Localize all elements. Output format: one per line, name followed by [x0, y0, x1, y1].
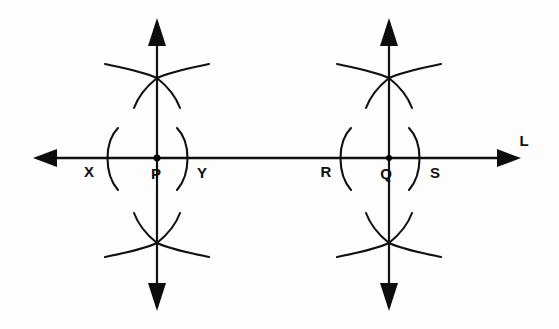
small-arc-upper-right-P	[157, 78, 180, 108]
line-label-L: L	[519, 132, 528, 149]
wide-arc-lower-left-Q	[337, 243, 389, 257]
horizontal-line-group	[33, 149, 521, 167]
point-label-R: R	[321, 163, 332, 180]
point-label-P: P	[151, 165, 161, 182]
point-dot-P	[154, 155, 161, 162]
wide-arc-upper-right-P	[157, 64, 209, 78]
point-dot-Q	[386, 155, 392, 161]
wide-arc-upper-left-P	[105, 64, 157, 78]
wide-arc-upper-right-Q	[389, 64, 441, 78]
figure-root: X P Y R Q S L	[0, 0, 559, 329]
right-arrowhead	[497, 149, 521, 167]
small-arc-upper-left-P	[134, 78, 157, 108]
point-label-X: X	[84, 163, 94, 180]
small-arc-lower-right-Q	[389, 213, 412, 243]
left-arrowhead	[33, 149, 57, 167]
construction-diagram: X P Y R Q S L	[0, 0, 559, 329]
small-arc-upper-right-Q	[389, 78, 412, 108]
small-arc-lower-left-P	[134, 213, 157, 243]
point-label-Q: Q	[380, 165, 392, 182]
perpendicular-P-top-arrowhead	[148, 18, 166, 46]
point-label-Y: Y	[197, 164, 207, 181]
wide-arc-lower-right-Q	[389, 243, 441, 257]
perpendicular-Q-top-arrowhead	[380, 18, 398, 46]
wide-arc-upper-left-Q	[337, 64, 389, 78]
small-arc-upper-left-Q	[366, 78, 389, 108]
perpendicular-Q-bottom-arrowhead	[380, 283, 398, 311]
small-arc-lower-left-Q	[366, 213, 389, 243]
point-label-S: S	[430, 164, 440, 181]
small-arc-lower-right-P	[157, 213, 180, 243]
perpendicular-P-bottom-arrowhead	[148, 283, 166, 311]
wide-arc-lower-left-P	[105, 243, 157, 257]
wide-arc-lower-right-P	[157, 243, 209, 257]
